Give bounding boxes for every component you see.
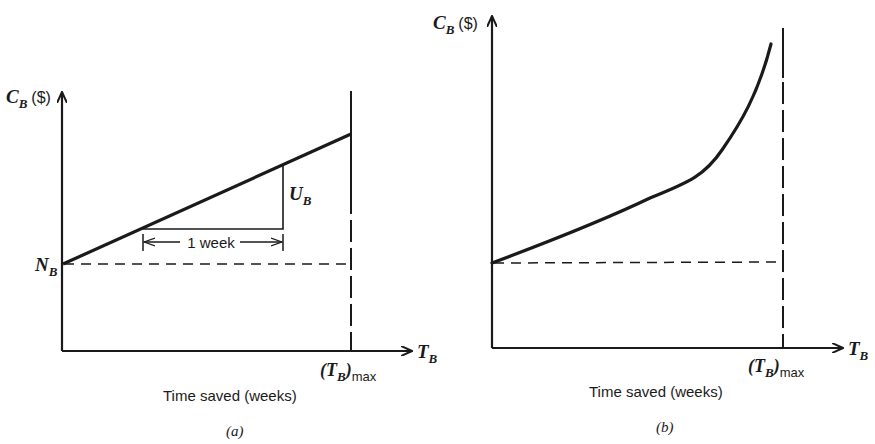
- intercept-label: NB: [34, 254, 58, 279]
- panel-tag-b: (b): [656, 419, 674, 436]
- x-axis-label-a: TB: [417, 341, 438, 366]
- y-axis-label-b: CB($): [433, 12, 478, 37]
- panel-a: 1 week CB($) NB UB TB (TB)max: [6, 86, 438, 384]
- interval-label: 1 week: [187, 234, 235, 251]
- tmax-label-b: (TB)max: [748, 356, 805, 380]
- panel-b: CB($) TB (TB)max: [433, 12, 869, 380]
- cost-curve-b: [492, 44, 771, 263]
- figure-canvas: 1 week CB($) NB UB TB (TB)max CB($) TB: [0, 0, 875, 444]
- x-title-a: Time saved (weeks): [163, 387, 297, 404]
- x-title-b: Time saved (weeks): [589, 383, 723, 400]
- x-axis-label-b: TB: [848, 338, 869, 363]
- y-axis-label-a: CB($): [6, 86, 51, 111]
- panel-tag-a: (a): [226, 423, 244, 440]
- baseline-dashed-b: [494, 262, 781, 263]
- tmax-label-a: (TB)max: [320, 360, 377, 384]
- slope-label: UB: [289, 183, 312, 208]
